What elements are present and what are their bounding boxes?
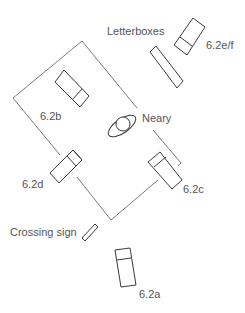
camera-6-2c-label: 6.2c <box>183 183 204 195</box>
neary-figure-icon <box>105 111 139 141</box>
camera-6-2a-icon <box>115 248 136 287</box>
camera-6-2d-icon <box>50 150 82 183</box>
letterboxes-label: Letterboxes <box>107 25 165 37</box>
neary-label: Neary <box>142 112 172 124</box>
letterboxes-shape <box>150 46 183 88</box>
crossing-sign-shape <box>82 224 98 241</box>
camera-6-2a-label: 6.2a <box>139 288 161 300</box>
crossing-sign-label: Crossing sign <box>10 226 77 238</box>
camera-6-2d-label: 6.2d <box>22 178 43 190</box>
camera-6-2b-icon <box>55 70 89 107</box>
camera-6-2e-f-label: 6.2e/f <box>206 39 234 51</box>
camera-6-2b-label: 6.2b <box>40 110 61 122</box>
area-boundary <box>13 41 181 220</box>
camera-6-2e-f-icon <box>174 18 205 55</box>
scene-diagram: Letterboxes 6.2e/f 6.2b Neary 6.2d 6.2c … <box>0 0 245 313</box>
